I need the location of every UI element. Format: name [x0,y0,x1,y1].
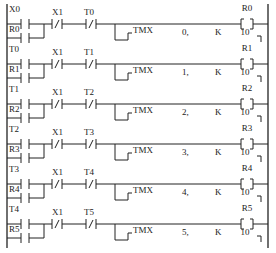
coil-right-bracket [250,179,253,189]
timer-number: 2, [182,107,189,117]
contact-label-input: T0 [9,44,19,54]
contact-nc-x1-slash [55,20,59,28]
ladder-svg: X0R0X1T0TMX0,K10R0T0R1X1T1TMX1,K10R1T1R2… [0,0,276,253]
contact-nc-x1-slash [55,140,59,148]
contact-nc-timer-slash [89,100,93,108]
contact-label-nc2: T4 [84,167,94,177]
contact-nc-x1-slash [55,60,59,68]
contact-label-seal: R1 [9,64,20,74]
contact-label-nc2: T5 [84,207,94,217]
contact-label-input: T3 [9,164,19,174]
coil-label: R1 [242,43,253,53]
contact-label-seal: R0 [9,24,20,34]
contact-label-nc1: X1 [52,47,63,57]
contact-label-seal: R5 [9,224,20,234]
timer-number: 5, [182,227,189,237]
contact-label-input: T4 [9,204,19,214]
contact-label-input: T2 [9,124,19,134]
timer-k-label: K [215,147,222,157]
coil-label: R5 [242,203,253,213]
coil-right-bracket [250,219,253,229]
timer-k-label: K [215,67,222,77]
contact-nc-x1-slash [55,180,59,188]
coil-right-bracket [250,99,253,109]
contact-nc-timer-slash [89,60,93,68]
timer-number: 0, [182,27,189,37]
timer-instruction: TMX [133,225,154,235]
timer-k-label: K [215,227,222,237]
contact-label-nc1: X1 [52,167,63,177]
timer-k-label: K [215,107,222,117]
timer-instruction: TMX [133,185,154,195]
contact-label-input: T1 [9,84,19,94]
contact-label-input: X0 [9,4,20,14]
contact-label-seal: R3 [9,144,20,154]
contact-label-seal: R2 [9,104,20,114]
timer-instruction: TMX [133,145,154,155]
coil-right-bracket [250,19,253,29]
contact-label-nc1: X1 [52,127,63,137]
contact-nc-x1-slash [55,100,59,108]
contact-label-nc1: X1 [52,87,63,97]
contact-nc-timer-slash [89,20,93,28]
timer-number: 1, [182,67,189,77]
timer-instruction: TMX [133,65,154,75]
coil-label: R2 [242,83,253,93]
timer-instruction: TMX [133,105,154,115]
timer-instruction: TMX [133,25,154,35]
coil-right-bracket [250,59,253,69]
contact-label-nc1: X1 [52,7,63,17]
contact-nc-timer-slash [89,140,93,148]
ladder-diagram: X0R0X1T0TMX0,K10R0T0R1X1T1TMX1,K10R1T1R2… [0,0,276,253]
contact-label-nc2: T0 [84,7,94,17]
contact-nc-x1-slash [55,220,59,228]
timer-k-label: K [215,27,222,37]
timer-k-label: K [215,187,222,197]
coil-right-bracket [250,139,253,149]
contact-label-nc2: T1 [84,47,94,57]
contact-nc-timer-slash [89,180,93,188]
contact-label-nc2: T2 [84,87,94,97]
contact-label-nc1: X1 [52,207,63,217]
coil-label: R0 [242,3,253,13]
contact-nc-timer-slash [89,220,93,228]
coil-label: R3 [242,123,253,133]
contact-label-seal: R4 [9,184,20,194]
timer-number: 3, [182,147,189,157]
timer-number: 4, [182,187,189,197]
coil-label: R4 [242,163,253,173]
contact-label-nc2: T3 [84,127,94,137]
